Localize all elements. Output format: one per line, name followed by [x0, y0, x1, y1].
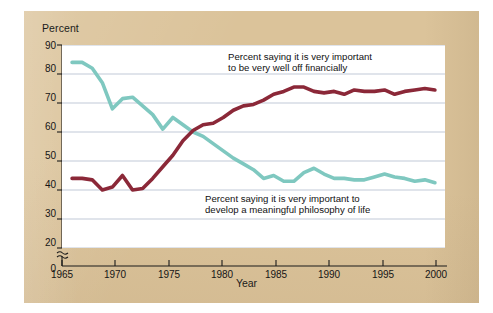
gridlines: [62, 45, 445, 248]
annotation-philosophy-line2: develop a meaningful philosophy of life: [205, 204, 370, 215]
plot-canvas: [62, 45, 445, 248]
annotation-philosophy-line1: Percent saying it is very important to: [205, 193, 370, 204]
annotation-financial-line2: to be very well off financially: [228, 62, 372, 73]
chart-figure: Percent 90 80 70 60 50 40 30 20 0 1965 1…: [0, 0, 493, 313]
annotation-financial: Percent saying it is very important to b…: [228, 51, 372, 74]
series-line-philosophy: [72, 62, 435, 182]
annotation-philosophy: Percent saying it is very important to d…: [205, 193, 370, 216]
plot-area: [62, 45, 445, 248]
annotation-financial-line1: Percent saying it is very important: [228, 51, 372, 62]
